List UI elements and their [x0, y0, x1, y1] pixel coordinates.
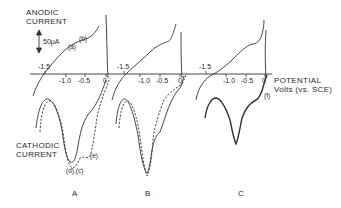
- tick-label-c-0: 0: [262, 77, 266, 85]
- tick-label-b-m15: -1.5: [117, 63, 129, 71]
- curve-label-e: (e): [90, 152, 98, 159]
- curve-label-b: (b): [79, 35, 87, 42]
- tick-label-c-m15: -1.5: [199, 63, 211, 71]
- x-axis-label: POTENTIAL: [274, 76, 321, 85]
- curve-label-f: (f): [264, 92, 270, 99]
- tick-label-b-m10: -1.0: [138, 77, 150, 85]
- panel-label-c: C: [238, 189, 244, 198]
- tick-label-b-m05: -0.5: [156, 77, 168, 85]
- panel-b-curves: [112, 24, 186, 176]
- curve-label-dc: (d),(c): [66, 167, 83, 174]
- tick-label-b-0: 0: [178, 77, 182, 85]
- tick-label-a-m10: -1.0: [59, 77, 71, 85]
- chart-plot-area: [0, 0, 341, 208]
- tick-label-c-m05: -0.5: [241, 77, 253, 85]
- tick-label-a-m15: -1.5: [38, 63, 50, 71]
- tick-label-a-m05: -0.5: [78, 77, 90, 85]
- tick-label-a-0: 0: [103, 77, 107, 85]
- x-axis-label-line2: Volts (vs. SCE): [274, 85, 332, 94]
- anodic-current-label: ANODIC: [26, 8, 59, 17]
- cathodic-current-label: CATHODIC: [16, 141, 60, 150]
- tick-label-c-m10: -1.0: [223, 77, 235, 85]
- panel-label-b: B: [145, 189, 150, 198]
- scale-label: 50μA: [43, 38, 60, 45]
- cathodic-current-label-line2: CURRENT: [16, 150, 57, 159]
- panel-label-a: A: [72, 189, 77, 198]
- curve-label-a: (a): [68, 43, 76, 50]
- anodic-current-label-line2: CURRENT: [26, 17, 67, 26]
- scale-arrow-icon: [37, 30, 42, 53]
